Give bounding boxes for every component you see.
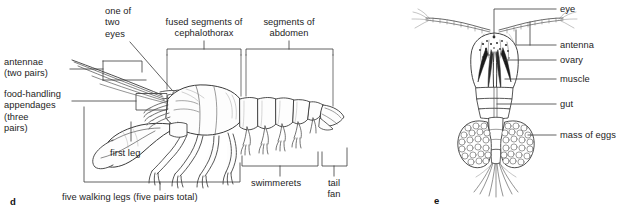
label-gut: gut <box>560 99 573 110</box>
label-ovary: ovary <box>560 55 583 66</box>
panel-letter-d: d <box>10 196 16 207</box>
label-segments-of-abdomen: segments of abdomen <box>248 17 330 40</box>
label-tail-fan: tail fan <box>318 178 350 201</box>
figure-canvas: antennae (two pairs) food-handling appen… <box>0 0 638 213</box>
label-muscle: muscle <box>560 74 590 85</box>
label-mass-of-eggs: mass of eggs <box>560 130 616 141</box>
label-first-leg: first leg <box>110 148 140 159</box>
lobster-drawing <box>72 60 344 188</box>
label-swimmerets: swimmerets <box>251 178 301 189</box>
label-five-walking-legs: five walking legs (five pairs total) <box>62 192 198 203</box>
panel-letter-e: e <box>434 195 439 206</box>
label-antennae: antennae (two pairs) <box>4 57 48 80</box>
copepod-drawing <box>412 9 577 197</box>
label-antenna: antenna <box>560 40 594 51</box>
label-eye: eye <box>560 4 575 15</box>
label-one-of-two-eyes: one of two eyes <box>105 6 131 40</box>
label-food-handling-appendages: food-handling appendages (three pairs) <box>4 89 61 135</box>
